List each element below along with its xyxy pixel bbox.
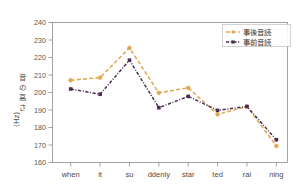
x-tick-label: su xyxy=(125,170,133,179)
data-point xyxy=(128,58,132,62)
legend-label-2: 事前音読 xyxy=(243,38,272,47)
data-point xyxy=(69,87,73,91)
legend-marker-2 xyxy=(231,40,234,43)
y-tick-label: 170 xyxy=(34,141,46,150)
chart-legend: 事後音読事前音読 xyxy=(223,25,291,47)
data-point xyxy=(69,78,73,82)
y-tick-label: 200 xyxy=(34,88,46,97)
data-point xyxy=(216,112,220,116)
series-1 xyxy=(69,46,278,148)
y-tick-label: 160 xyxy=(34,158,46,167)
series-line xyxy=(71,60,277,140)
data-point xyxy=(245,105,249,109)
data-series-group xyxy=(69,46,278,148)
y-axis-title: 音 の 高 さ (Hz) xyxy=(12,73,26,127)
x-tick-label: it xyxy=(98,170,103,179)
data-point xyxy=(157,91,161,95)
x-tick-label: ted xyxy=(212,170,223,179)
data-point xyxy=(98,76,102,80)
y-tick-label: 240 xyxy=(34,18,46,27)
x-tick-label: ddenly xyxy=(148,170,171,179)
y-tick-label: 180 xyxy=(34,123,46,132)
data-point xyxy=(98,92,102,96)
data-point xyxy=(186,86,190,90)
y-axis-title-char-0: 音 xyxy=(19,73,26,82)
x-tick-label: when xyxy=(61,170,80,179)
data-point xyxy=(128,46,132,50)
line-chart: 音 の 高 さ (Hz) 160170180190200210220230240… xyxy=(0,0,300,196)
data-point xyxy=(275,138,279,142)
x-tick-label: star xyxy=(182,170,195,179)
y-axis-title-char-2: 高 xyxy=(19,93,26,102)
y-axis-ticks: 160170180190200210220230240 xyxy=(34,18,53,167)
series-2 xyxy=(69,58,278,141)
data-point xyxy=(216,109,220,113)
data-point xyxy=(157,106,161,110)
y-tick-label: 220 xyxy=(34,53,46,62)
x-tick-label: rai xyxy=(243,170,252,179)
data-point xyxy=(274,144,278,148)
y-axis-title-char-1: の xyxy=(19,83,26,92)
legend-marker-1 xyxy=(231,30,234,33)
y-axis-title-char-3: さ xyxy=(19,103,26,112)
chart-canvas: 音 の 高 さ (Hz) 160170180190200210220230240… xyxy=(0,0,300,196)
legend-label-1: 事後音読 xyxy=(243,28,272,37)
data-point xyxy=(186,95,190,99)
y-axis-title-unit: (Hz) xyxy=(12,112,21,127)
x-axis-ticks: whenitsuddenlystartedraining xyxy=(61,163,284,180)
x-tick-label: ning xyxy=(269,170,283,179)
y-tick-label: 230 xyxy=(34,36,46,45)
series-line xyxy=(71,48,277,146)
y-tick-label: 210 xyxy=(34,71,46,80)
y-tick-label: 190 xyxy=(34,106,46,115)
